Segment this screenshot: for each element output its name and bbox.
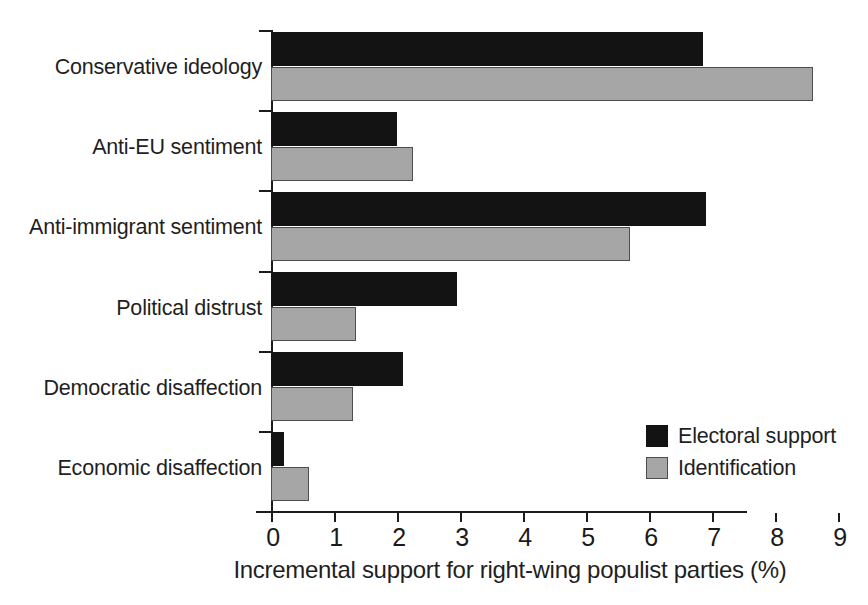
x-axis-tick [712,513,714,522]
legend-item: Identification [646,452,861,484]
bar-electoral-support [271,192,706,226]
x-axis-tick [586,513,588,522]
x-axis-title: Incremental support for right-wing popul… [160,556,860,584]
x-axis-tick [271,513,273,522]
x-axis-tick-label: 4 [505,523,545,552]
x-axis-tick [523,513,525,522]
x-axis-tick [838,513,840,522]
x-axis-tick-label: 6 [631,523,671,552]
y-axis-label: Conservative ideology [10,55,262,80]
y-axis-label: Political distrust [10,296,262,321]
x-axis-tick-label: 2 [379,523,419,552]
legend-swatch-electoral [646,425,668,447]
bar-electoral-support [271,352,403,386]
x-axis-tick [649,513,651,522]
bar-electoral-support [271,432,284,466]
bar-electoral-support [271,32,703,66]
legend-label: Identification [678,456,796,481]
x-axis-tick-label: 0 [253,523,293,552]
legend-item: Electoral support [646,420,861,452]
legend: Electoral supportIdentification [646,420,861,484]
y-axis-labels: Conservative ideologyAnti-EU sentimentAn… [0,0,262,512]
x-axis-tick [460,513,462,522]
y-axis-label: Anti-immigrant sentiment [10,215,262,240]
bar-identification [271,467,309,501]
x-axis-tick-label: 7 [694,523,734,552]
bar-identification [271,147,413,181]
x-axis-tick [334,513,336,522]
y-axis-label: Democratic disaffection [10,376,262,401]
bar-electoral-support [271,112,397,146]
x-axis-tick-label: 9 [820,523,860,552]
bar-identification [271,67,813,101]
bar-chart-figure: Conservative ideologyAnti-EU sentimentAn… [0,0,868,605]
legend-label: Electoral support [678,424,836,449]
x-axis-tick-label: 3 [442,523,482,552]
bar-identification [271,307,356,341]
bar-identification [271,227,630,261]
x-axis-tick-label: 5 [568,523,608,552]
bar-electoral-support [271,272,457,306]
x-axis-tick-label: 1 [316,523,356,552]
legend-swatch-identification [646,457,668,479]
y-axis-label: Anti-EU sentiment [10,135,262,160]
x-axis-tick [775,513,777,522]
x-axis-tick-label: 8 [757,523,797,552]
bar-identification [271,387,353,421]
y-axis-label: Economic disaffection [10,456,262,481]
x-axis-tick [397,513,399,522]
